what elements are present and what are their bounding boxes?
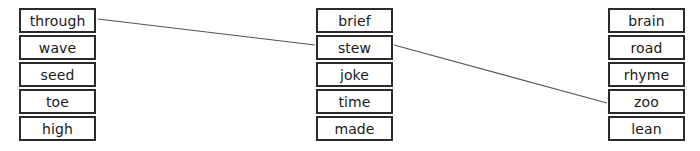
word-box[interactable]: brain	[608, 8, 685, 33]
connector-line-through-to-stew	[98, 19, 315, 45]
word-box[interactable]: through	[19, 8, 96, 33]
word-box[interactable]: joke	[316, 62, 393, 87]
word-box[interactable]: lean	[608, 116, 685, 141]
word-box[interactable]: brief	[316, 8, 393, 33]
word-box[interactable]: stew	[316, 35, 393, 60]
word-matching-diagram: through wave seed toe high brief stew jo…	[0, 0, 700, 151]
connector-line-stew-to-zoo	[394, 45, 607, 103]
word-box[interactable]: toe	[19, 89, 96, 114]
word-box[interactable]: time	[316, 89, 393, 114]
word-box[interactable]: seed	[19, 62, 96, 87]
word-box[interactable]: wave	[19, 35, 96, 60]
word-column-middle: brief stew joke time made	[316, 8, 393, 141]
word-box[interactable]: made	[316, 116, 393, 141]
word-box[interactable]: road	[608, 35, 685, 60]
word-box[interactable]: high	[19, 116, 96, 141]
word-box[interactable]: rhyme	[608, 62, 685, 87]
word-column-right: brain road rhyme zoo lean	[608, 8, 685, 141]
word-box[interactable]: zoo	[608, 89, 685, 114]
word-column-left: through wave seed toe high	[19, 8, 96, 141]
